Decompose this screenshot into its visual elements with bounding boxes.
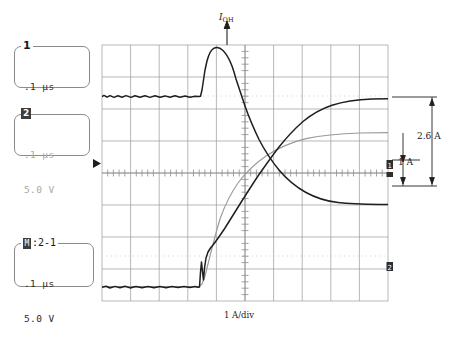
volts-per-div-math: 5.0 V bbox=[24, 313, 55, 325]
y-axis-label: IOH bbox=[219, 12, 234, 22]
channel-info-box-math[interactable]: M:2-1 .1 µs 5.0 V bbox=[14, 243, 94, 287]
measurement-label-step: 1 A bbox=[398, 157, 413, 167]
channel-tab-math[interactable]: M:2-1 bbox=[21, 237, 58, 249]
x-axis-label: 1 A/div bbox=[224, 310, 254, 320]
svg-text:2: 2 bbox=[388, 264, 392, 272]
channel-marker-math[interactable]: 2 bbox=[387, 262, 394, 272]
channel-info-box-ch1[interactable]: 1 .1 µs 5.0 V bbox=[14, 46, 90, 88]
volts-per-div-ch2: 5.0 V bbox=[24, 184, 55, 196]
timebase-value-ch1: .1 µs bbox=[24, 81, 55, 93]
channel-marker-ch2[interactable] bbox=[387, 172, 394, 177]
channel-tab-ch1[interactable]: 1 bbox=[21, 40, 33, 52]
channel-marker-ch1[interactable]: 1 bbox=[387, 160, 394, 170]
channel-tab-ch2[interactable]: 2 bbox=[21, 108, 31, 119]
timebase-value-math: .1 µs bbox=[24, 278, 55, 290]
channel-settings-ch2: .1 µs 5.0 V bbox=[24, 126, 55, 218]
y-axis-label-subscript: OH bbox=[223, 16, 234, 24]
math-expression-label: :2-1 bbox=[32, 237, 56, 249]
svg-text:1: 1 bbox=[388, 162, 392, 170]
timebase-value-ch2: .1 µs bbox=[24, 149, 55, 161]
measurement-label-span: 2.6 A bbox=[417, 131, 441, 141]
channel-settings-math: .1 µs 5.0 V bbox=[24, 255, 55, 337]
channel-info-box-ch2[interactable]: 2 .1 µs 5.0 V bbox=[14, 114, 90, 156]
math-function-icon: M bbox=[23, 238, 31, 249]
